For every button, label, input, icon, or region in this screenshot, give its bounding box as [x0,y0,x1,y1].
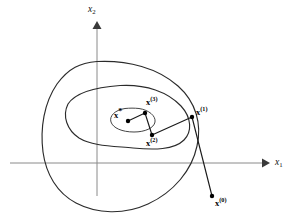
optimization-contour-figure: x2 x1 x* x(3) x(2) x(1) x(0) [0,0,298,223]
x2-axis-label-subscript: 2 [92,8,95,15]
x2-axis-arrowhead [93,21,102,29]
point-label-x0: x(0) [215,199,226,208]
point-label-x3-superscript: (3) [150,95,157,102]
point-label-x-star: x* [114,111,122,120]
marker-x1 [190,115,194,119]
x2-axis-label: x2 [88,5,96,15]
contours-group [42,61,199,211]
path-segment-x3-xstar [128,113,145,121]
path-segment-x2-x3 [145,113,152,135]
marker-x3 [143,111,147,115]
point-label-x3: x(3) [146,98,157,107]
outer-contour [42,61,199,211]
x1-axis-label: x1 [275,158,283,168]
x1-axis-arrowhead [262,159,270,168]
marker-x-star [126,119,130,123]
point-label-x-star-superscript: * [118,107,122,116]
point-label-x1: x(1) [196,108,207,117]
iterate-path-group [128,113,212,196]
figure-canvas [0,0,298,223]
x1-axis-label-subscript: 1 [279,161,282,168]
marker-x0 [210,194,214,198]
point-label-x2-superscript: (2) [150,136,157,143]
point-label-x2: x(2) [146,139,157,148]
path-segment-x0-x1 [192,117,212,196]
middle-contour [65,85,189,149]
point-label-x0-superscript: (0) [219,196,226,203]
point-label-x1-superscript: (1) [200,105,207,112]
path-segment-x1-x2 [152,117,192,135]
